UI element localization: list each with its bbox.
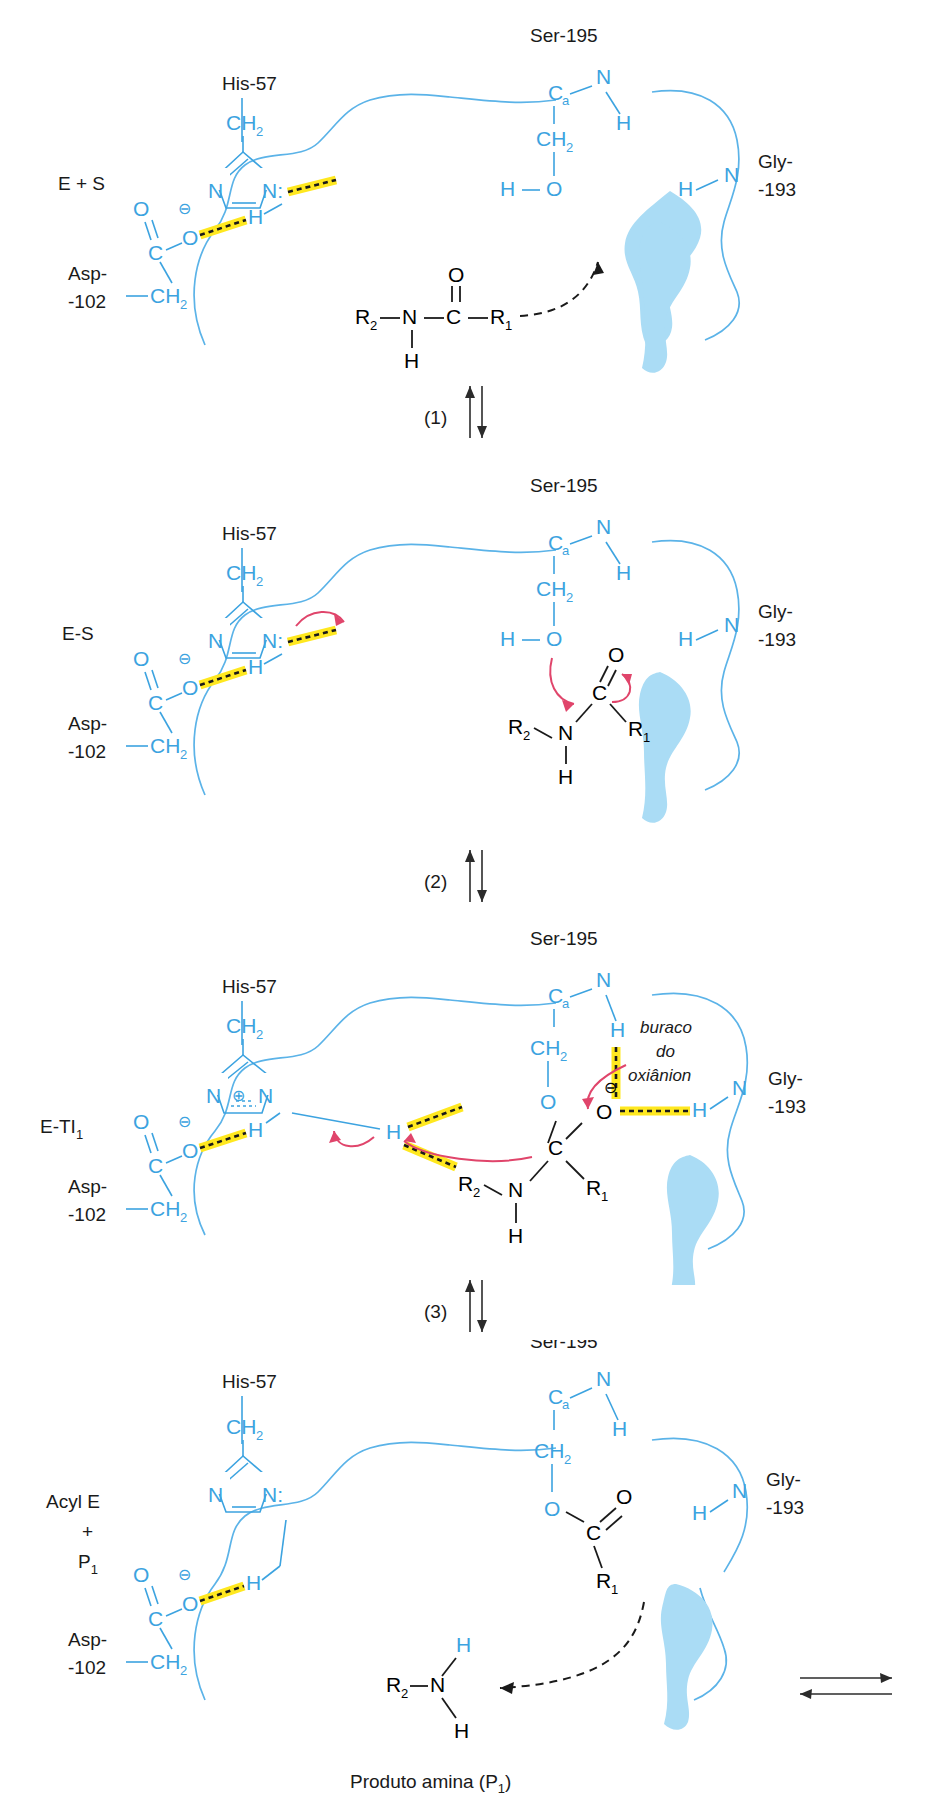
- atom-asp-negative-charge: ⊖: [178, 200, 191, 217]
- stage-label-acyl-e-p: P: [78, 1551, 91, 1572]
- atom-his-ch2-subscript: 2: [256, 1027, 263, 1042]
- atom-his-n1: N: [206, 1084, 221, 1107]
- atom-bridge-h: H: [248, 205, 263, 228]
- atom-bridge-h: H: [248, 1118, 263, 1141]
- atom-gly-h: H: [692, 1501, 707, 1524]
- atom-ser-backbone-h: H: [616, 561, 631, 584]
- label-his-57: His-57: [222, 523, 277, 544]
- atom-ser-hydroxyl-o: O: [546, 177, 562, 200]
- atom-ser-hydroxyl-h: H: [500, 627, 515, 650]
- atom-asp-carbonyl-o: O: [133, 647, 149, 670]
- hbond-highlight-asp-his: [200, 670, 246, 685]
- label-his-57: His-57: [222, 73, 277, 94]
- atom-his-n3: N:: [262, 629, 283, 652]
- product-caption-text: Produto amina (P: [350, 1771, 498, 1792]
- label-asp-102-bottom: -102: [68, 1657, 106, 1678]
- substrate-carbonyl-o: O: [448, 263, 464, 286]
- atom-his-ch2-subscript: 2: [256, 1428, 263, 1443]
- atom-ser-backbone-h: H: [616, 111, 631, 134]
- intermediate-oxyanion-o: O: [596, 1100, 612, 1123]
- atom-ser-calpha: C: [548, 531, 563, 554]
- product-amine-n: N: [430, 1673, 445, 1696]
- atom-gly-h: H: [678, 627, 693, 650]
- stage-panel-acyl-enzyme: His-57 Ser-195 C a N H CH 2 O CH 2 N N: …: [0, 1340, 942, 1806]
- label-gly-193-top: Gly-: [758, 601, 793, 622]
- product-r2-subscript: 2: [401, 1686, 408, 1701]
- atom-asp-carboxyl-c: C: [148, 1607, 163, 1630]
- substrate-r2-subscript: 2: [370, 318, 377, 333]
- atom-ser-calpha: C: [548, 1385, 563, 1408]
- atom-his-n1: N: [208, 629, 223, 652]
- substrate-amide-n: N: [402, 305, 417, 328]
- stage-label-e-ti1-text: E-TI: [40, 1116, 76, 1137]
- atom-asp-ch2: CH: [150, 1650, 180, 1673]
- atom-ser-calpha-subscript: a: [562, 543, 570, 558]
- stage-panel-e-s: His-57 Ser-195 C a N H CH 2 O H CH 2 N N…: [0, 450, 942, 830]
- atom-bridge-h: H: [246, 1571, 261, 1594]
- product-caption-subscript: 1: [498, 1781, 505, 1796]
- label-asp-102-bottom: -102: [68, 1204, 106, 1225]
- stage-label-acyl-e-line1: Acyl E: [46, 1491, 100, 1512]
- atom-gly-n: N: [724, 163, 739, 186]
- atom-ser-hydroxyl-h: H: [500, 177, 515, 200]
- atom-gly-h: H: [692, 1098, 707, 1121]
- label-his-57: His-57: [222, 976, 277, 997]
- atom-ser-ch2-subscript: 2: [564, 1452, 571, 1467]
- atom-asp-negative-charge: ⊖: [178, 650, 191, 667]
- atom-his-n1: N: [208, 1483, 223, 1506]
- label-gly-193-bottom: -193: [768, 1096, 806, 1117]
- product-release-arrow: [500, 1602, 644, 1688]
- label-asp-102-top: Asp-: [68, 1629, 107, 1650]
- substrate-carbonyl-c: C: [592, 681, 607, 704]
- substrate-amide-n: N: [558, 721, 573, 744]
- intermediate-r1: R: [586, 1176, 601, 1199]
- atom-ser-backbone-n: N: [596, 1367, 611, 1390]
- label-asp-102-top: Asp-: [68, 1176, 107, 1197]
- atom-asp-ch2-subscript: 2: [180, 747, 187, 762]
- atom-shuttle-h: H: [386, 1120, 401, 1143]
- atom-his-ch2: CH: [226, 111, 256, 134]
- step-label-2: (2): [424, 871, 447, 892]
- label-oxyanion-hole-line3: oxiânion: [628, 1066, 691, 1085]
- atom-his-ch2-subscript: 2: [256, 574, 263, 589]
- stage-label-e-s: E-S: [62, 623, 94, 644]
- intermediate-leaving-n: N: [508, 1178, 523, 1201]
- atom-asp-carbonyl-o: O: [133, 1110, 149, 1133]
- atom-bridge-h: H: [248, 655, 263, 678]
- atom-his-ch2-subscript: 2: [256, 124, 263, 139]
- label-ser-195: Ser-195: [530, 928, 598, 949]
- atom-asp-ch2: CH: [150, 284, 180, 307]
- atom-ser-backbone-n: N: [596, 968, 611, 991]
- substrate-r2: R: [355, 305, 370, 328]
- step-arrow-1: (1): [0, 376, 942, 456]
- label-ser-195: Ser-195: [530, 25, 598, 46]
- atom-ser-calpha-subscript: a: [562, 1397, 570, 1412]
- atom-ser-ester-o: O: [544, 1497, 560, 1520]
- atom-his-n3: N: [258, 1084, 273, 1107]
- atom-his-ch2: CH: [226, 1014, 256, 1037]
- atom-his-n1: N: [208, 179, 223, 202]
- substrate-r1-subscript: 1: [505, 318, 512, 333]
- label-asp-102-top: Asp-: [68, 263, 107, 284]
- intermediate-r2-subscript: 2: [473, 1185, 480, 1200]
- atom-ser-backbone-n: N: [596, 515, 611, 538]
- stage-label-acyl-e-p-subscript: 1: [91, 1562, 98, 1577]
- mechanism-arrow-o-to-c: [550, 658, 574, 704]
- atom-asp-ch2-subscript: 2: [180, 1210, 187, 1225]
- atom-asp-ch2-subscript: 2: [180, 1663, 187, 1678]
- atom-ser-ch2: CH: [536, 577, 566, 600]
- intermediate-r2: R: [458, 1172, 473, 1195]
- atom-asp-carbonyl-o: O: [133, 197, 149, 220]
- mechanism-arrow-h-to-his: [334, 1131, 374, 1146]
- atom-ser-ch2: CH: [534, 1439, 564, 1462]
- atom-asp-oxyanion-o: O: [182, 1592, 198, 1615]
- atom-ser-calpha: C: [548, 81, 563, 104]
- label-ser-195: Ser-195: [530, 1340, 598, 1352]
- label-asp-102-top: Asp-: [68, 713, 107, 734]
- label-gly-193-bottom: -193: [758, 179, 796, 200]
- intermediate-leaving-nh: H: [508, 1224, 523, 1247]
- atom-asp-ch2: CH: [150, 1197, 180, 1220]
- acyl-r1: R: [596, 1569, 611, 1592]
- substrate-amide-h: H: [404, 349, 419, 372]
- label-asp-102-bottom: -102: [68, 741, 106, 762]
